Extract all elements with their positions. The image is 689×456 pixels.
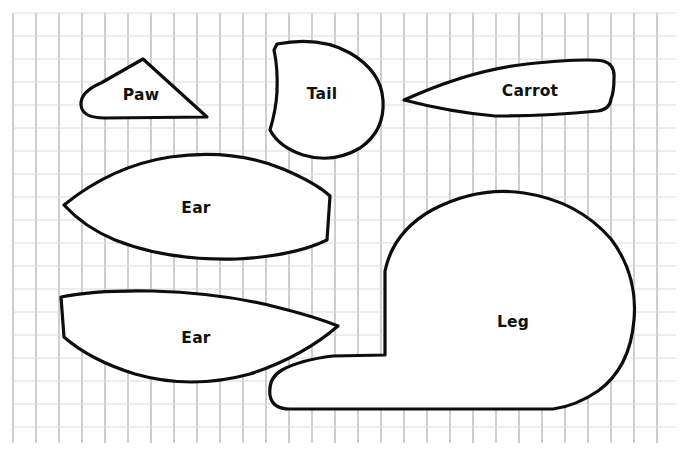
pattern-piece-label-leg: Leg (497, 313, 529, 331)
pattern-piece-label-tail: Tail (307, 85, 337, 103)
pattern-sheet: PawTailCarrotEarEarLeg (0, 0, 689, 456)
pattern-piece-label-paw: Paw (123, 86, 159, 104)
pattern-pieces-layer (0, 0, 689, 456)
pattern-piece-label-ear-top: Ear (181, 199, 210, 217)
pattern-piece-label-ear-bottom: Ear (181, 329, 210, 347)
pattern-piece-label-carrot: Carrot (502, 82, 558, 100)
